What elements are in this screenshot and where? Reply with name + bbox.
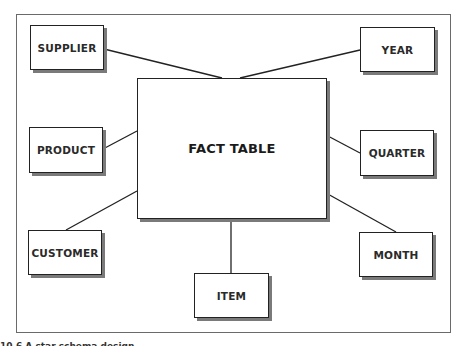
dimension-label: SUPPLIER bbox=[38, 42, 97, 54]
fact-table-label: FACT TABLE bbox=[188, 141, 275, 156]
dimension-label: ITEM bbox=[217, 290, 247, 302]
dimension-year-box: YEAR bbox=[360, 27, 435, 72]
dimension-label: MONTH bbox=[373, 249, 418, 261]
figure-caption: 10.6 A star schema design. bbox=[0, 338, 138, 346]
connector-supplier bbox=[104, 49, 222, 78]
dimension-month-box: MONTH bbox=[359, 232, 433, 277]
connector-year bbox=[240, 50, 360, 78]
fact-table-box: FACT TABLE bbox=[137, 78, 327, 219]
connector-customer bbox=[66, 191, 137, 230]
connector-quarter bbox=[326, 135, 360, 153]
dimension-item-box: ITEM bbox=[194, 273, 269, 318]
dimension-product-box: PRODUCT bbox=[29, 127, 103, 173]
dimension-label: PRODUCT bbox=[37, 144, 95, 156]
dimension-label: CUSTOMER bbox=[31, 247, 98, 259]
connector-product bbox=[103, 131, 137, 149]
dimension-label: YEAR bbox=[382, 44, 414, 56]
connector-month bbox=[326, 193, 396, 232]
dimension-customer-box: CUSTOMER bbox=[28, 230, 102, 275]
dimension-label: QUARTER bbox=[369, 147, 426, 159]
dimension-supplier-box: SUPPLIER bbox=[30, 25, 104, 70]
dimension-quarter-box: QUARTER bbox=[360, 130, 434, 176]
